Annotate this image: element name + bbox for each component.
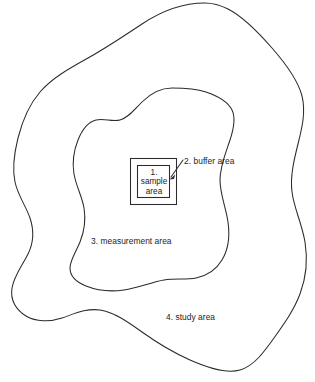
label-study-area: 4. study area (166, 313, 215, 322)
label-sample-area: 1. sample area (137, 166, 171, 198)
label-buffer-area: 2. buffer area (184, 157, 234, 166)
label-measurement-area: 3. measurement area (91, 237, 172, 246)
label-sample-line2: area (146, 187, 162, 197)
label-sample-line1: sample (141, 177, 167, 187)
label-sample-number: 1. (151, 168, 158, 178)
diagram-canvas: 2. buffer area 3. measurement area 4. st… (0, 0, 315, 382)
